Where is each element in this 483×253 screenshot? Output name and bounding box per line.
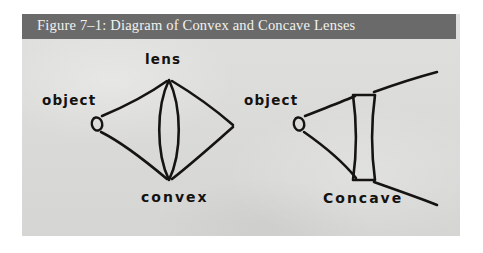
concave-lens-body — [353, 95, 375, 180]
convex-lens-diagram: lens object convex — [42, 51, 233, 205]
concave-object-marker — [293, 116, 306, 131]
convex-object-marker — [91, 116, 104, 131]
convex-refracted-ray-upper — [172, 81, 233, 125]
concave-incident-ray-lower — [304, 132, 356, 178]
convex-incident-ray-lower — [101, 132, 167, 179]
convex-object-label: object — [42, 92, 96, 108]
figure-caption-bar: Figure 7–1: Diagram of Convex and Concav… — [22, 14, 456, 39]
convex-lens-body — [159, 80, 179, 180]
concave-lens-diagram: object Concave — [244, 72, 437, 206]
convex-name-label: convex — [141, 189, 209, 205]
concave-incident-ray-upper — [305, 96, 355, 116]
lens-diagram: lens object convex object — [22, 39, 460, 236]
concave-diverging-ray-upper — [374, 72, 437, 92]
figure-caption-text: Figure 7–1: Diagram of Convex and Concav… — [37, 17, 355, 34]
concave-name-label: Concave — [323, 190, 403, 206]
convex-lens-label: lens — [145, 51, 181, 67]
convex-incident-ray-upper — [102, 81, 167, 116]
concave-object-label: object — [244, 92, 298, 108]
figure-block: Figure 7–1: Diagram of Convex and Concav… — [22, 14, 460, 236]
convex-refracted-ray-lower — [172, 127, 233, 179]
